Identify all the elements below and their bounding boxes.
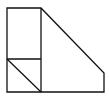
geometry-diagram: [0, 0, 109, 96]
outer-polygon: [7, 8, 104, 92]
diagonal-small: [7, 59, 41, 92]
